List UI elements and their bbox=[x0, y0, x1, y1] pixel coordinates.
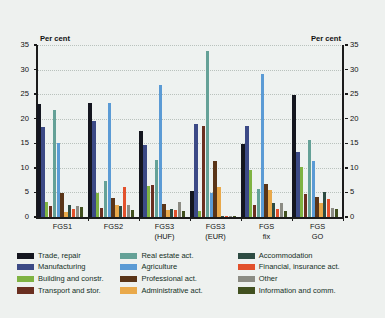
chart-figure: 0055101015152020252530303535 Per cent Pe… bbox=[0, 0, 385, 318]
legend-swatch bbox=[17, 253, 34, 259]
chart-legend: Trade, repairManufacturingBuilding and c… bbox=[17, 250, 372, 300]
x-category-label: FGS2 bbox=[86, 222, 142, 232]
x-category-label-line: FGS2 bbox=[86, 222, 142, 232]
legend-swatch bbox=[120, 276, 137, 282]
legend-label: Financial, insurance act. bbox=[259, 263, 340, 271]
x-category-label: FGS3(HUF) bbox=[137, 222, 193, 241]
legend-label: Trade, repair bbox=[38, 252, 81, 260]
y-tick-label-left: 20 bbox=[13, 115, 29, 123]
legend-label: Other bbox=[259, 275, 278, 283]
y-tick-label-right: 35 bbox=[350, 41, 366, 49]
legend-item[interactable]: Professional act. bbox=[120, 273, 237, 285]
y-axis-unit-left: Per cent bbox=[40, 34, 70, 43]
x-tick bbox=[241, 218, 242, 221]
legend-item[interactable]: Building and constr. bbox=[17, 273, 120, 285]
y-tick bbox=[345, 167, 348, 168]
bar bbox=[182, 211, 185, 217]
x-tick bbox=[292, 218, 293, 221]
bar-group bbox=[88, 45, 134, 217]
x-category-label: FGS1 bbox=[35, 222, 91, 232]
legend-item[interactable]: Agriculture bbox=[120, 262, 237, 274]
bar bbox=[131, 210, 134, 217]
x-category-label-line: FGS bbox=[239, 222, 295, 232]
legend-item[interactable]: Information and comm. bbox=[238, 285, 372, 297]
legend-label: Real estate act. bbox=[141, 252, 193, 260]
x-tick bbox=[190, 218, 191, 221]
bar-group bbox=[190, 45, 236, 217]
x-category-label-line: (HUF) bbox=[137, 232, 193, 242]
legend-label: Professional act. bbox=[141, 275, 196, 283]
legend-item[interactable]: Trade, repair bbox=[17, 250, 120, 262]
legend-column: Trade, repairManufacturingBuilding and c… bbox=[17, 250, 120, 300]
bar-group bbox=[241, 45, 287, 217]
y-tick bbox=[345, 118, 348, 119]
y-tick-label-left: 15 bbox=[13, 139, 29, 147]
bar bbox=[284, 211, 287, 217]
bar-group bbox=[37, 45, 83, 217]
x-category-label-line: FGS1 bbox=[35, 222, 91, 232]
legend-item[interactable]: Administrative act. bbox=[120, 285, 237, 297]
legend-swatch bbox=[120, 253, 137, 259]
legend-swatch bbox=[17, 287, 34, 293]
y-tick bbox=[345, 69, 348, 70]
legend-label: Information and comm. bbox=[259, 287, 336, 295]
legend-label: Manufacturing bbox=[38, 263, 86, 271]
legend-label: Building and constr. bbox=[38, 275, 103, 283]
x-category-label: FGSGO bbox=[290, 222, 346, 241]
x-category-label: FGSfix bbox=[239, 222, 295, 241]
x-tick bbox=[88, 218, 89, 221]
y-tick-label-right: 0 bbox=[350, 213, 366, 221]
bar bbox=[233, 216, 236, 217]
x-tick bbox=[343, 218, 344, 221]
y-tick-label-right: 5 bbox=[350, 188, 366, 196]
legend-swatch bbox=[238, 264, 255, 270]
y-tick-label-left: 25 bbox=[13, 90, 29, 98]
legend-swatch bbox=[238, 276, 255, 282]
x-category-label-line: FGS3 bbox=[188, 222, 244, 232]
x-category-label-line: FGS bbox=[290, 222, 346, 232]
legend-swatch bbox=[17, 276, 34, 282]
bar bbox=[159, 85, 162, 217]
bar-group bbox=[139, 45, 185, 217]
bar bbox=[80, 207, 83, 217]
legend-label: Administrative act. bbox=[141, 287, 202, 295]
legend-label: Transport and stor. bbox=[38, 287, 101, 295]
x-category-label-line: (EUR) bbox=[188, 232, 244, 242]
x-category-label-line: FGS3 bbox=[137, 222, 193, 232]
y-tick-label-left: 35 bbox=[13, 41, 29, 49]
y-tick-label-left: 10 bbox=[13, 164, 29, 172]
legend-item[interactable]: Manufacturing bbox=[17, 262, 120, 274]
y-tick bbox=[345, 44, 348, 45]
legend-item[interactable]: Financial, insurance act. bbox=[238, 262, 372, 274]
legend-column: Real estate act.AgricultureProfessional … bbox=[120, 250, 237, 300]
legend-swatch bbox=[120, 264, 137, 270]
y-tick-label-right: 30 bbox=[350, 66, 366, 74]
y-axis-unit-right: Per cent bbox=[311, 34, 341, 43]
y-tick bbox=[345, 216, 348, 217]
y-tick-label-right: 20 bbox=[350, 115, 366, 123]
y-axis-right bbox=[342, 45, 344, 218]
legend-swatch bbox=[238, 287, 255, 293]
legend-swatch bbox=[238, 253, 255, 259]
y-tick-label-right: 10 bbox=[350, 164, 366, 172]
y-tick-label-right: 25 bbox=[350, 90, 366, 98]
x-category-label: FGS3(EUR) bbox=[188, 222, 244, 241]
y-tick-label-left: 0 bbox=[13, 213, 29, 221]
y-tick-label-left: 30 bbox=[13, 66, 29, 74]
legend-item[interactable]: Other bbox=[238, 273, 372, 285]
x-category-label-line: fix bbox=[239, 232, 295, 242]
legend-item[interactable]: Transport and stor. bbox=[17, 285, 120, 297]
y-tick bbox=[345, 192, 348, 193]
bar bbox=[194, 124, 197, 217]
x-category-label-line: GO bbox=[290, 232, 346, 242]
y-tick bbox=[345, 93, 348, 94]
bar-group bbox=[292, 45, 338, 217]
y-tick bbox=[345, 143, 348, 144]
legend-swatch bbox=[120, 287, 137, 293]
legend-item[interactable]: Accommodation bbox=[238, 250, 372, 262]
bar bbox=[335, 209, 338, 217]
y-tick-label-right: 15 bbox=[350, 139, 366, 147]
legend-item[interactable]: Real estate act. bbox=[120, 250, 237, 262]
legend-label: Accommodation bbox=[259, 252, 313, 260]
x-tick bbox=[139, 218, 140, 221]
